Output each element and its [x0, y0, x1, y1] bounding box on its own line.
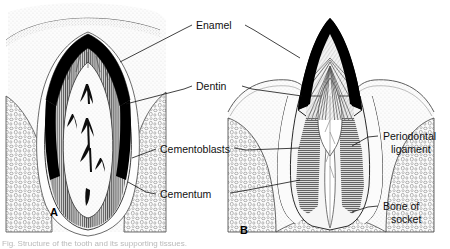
panel-a-letter: A — [50, 206, 58, 218]
label-cementoblasts: Cementoblasts — [160, 143, 230, 155]
label-bone-of-socket-line2: socket — [391, 213, 421, 225]
label-periodontal-ligament-line1: Periodontal — [383, 130, 436, 142]
cut-off-caption: Fig. Structure of the tooth and its supp… — [0, 238, 450, 249]
label-periodontal-ligament-line2: ligament — [391, 143, 431, 155]
label-bone-of-socket-line1: Bone of — [383, 200, 419, 212]
tooth-structure-figure: A — [0, 0, 450, 249]
panel-b-letter: B — [240, 224, 248, 236]
cut-off-caption-text: Fig. Structure of the tooth and its supp… — [0, 238, 450, 249]
label-enamel: Enamel — [196, 19, 232, 31]
label-cementum: Cementum — [160, 188, 212, 200]
label-dentin: Dentin — [196, 80, 227, 92]
panel-a-unerupted-tooth: A — [6, 3, 166, 236]
